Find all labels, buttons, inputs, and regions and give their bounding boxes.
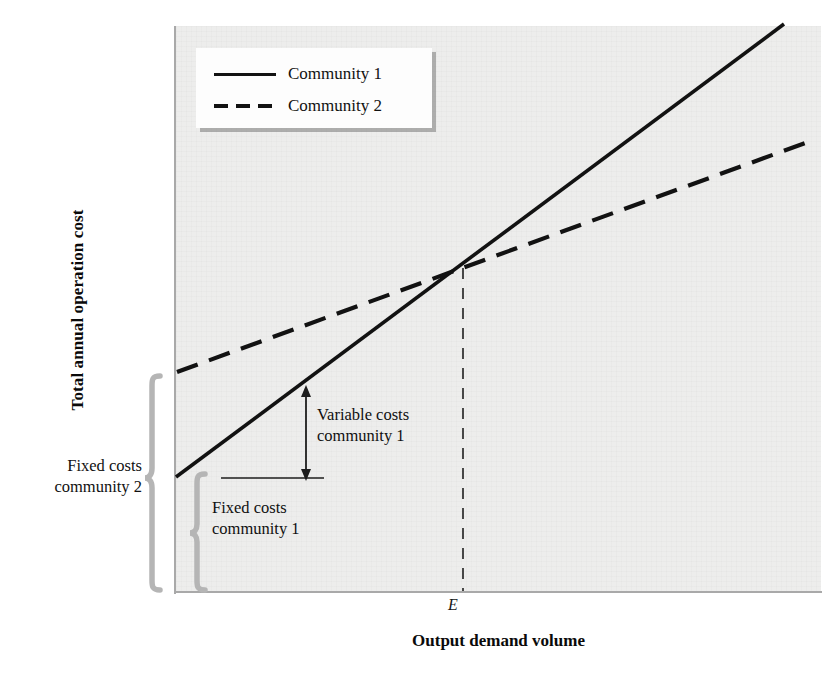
legend-key-dashed-line-icon <box>214 104 276 108</box>
brace-fixed-costs-community-2 <box>145 376 160 590</box>
annotation-fixed-costs-community-1: Fixed costs community 1 <box>212 497 300 539</box>
x-axis-title: Output demand volume <box>176 631 821 651</box>
annotation-variable-costs: Variable costs community 1 <box>317 404 409 446</box>
x-axis-line <box>174 591 822 593</box>
annotation-fixed-costs-1-line1: Fixed costs <box>212 497 300 518</box>
chart-legend: Community 1 Community 2 <box>196 48 432 128</box>
legend-entry-community-2: Community 2 <box>196 90 432 122</box>
legend-key-solid-line-icon <box>214 73 276 76</box>
figure-container: Total annual operation cost Output deman… <box>0 0 829 678</box>
legend-label-community-2: Community 2 <box>288 96 382 116</box>
legend-label-community-1: Community 1 <box>288 64 382 84</box>
breakeven-label-e: E <box>448 596 458 614</box>
annotation-fixed-costs-community-2: Fixed costs community 2 <box>0 455 142 497</box>
legend-entry-community-1: Community 1 <box>196 58 432 90</box>
annotation-fixed-costs-2-line2: community 2 <box>0 476 142 497</box>
annotation-fixed-costs-1-line2: community 1 <box>212 518 300 539</box>
annotation-fixed-costs-2-line1: Fixed costs <box>0 455 142 476</box>
annotation-variable-costs-line1: Variable costs <box>317 404 409 425</box>
y-axis-title: Total annual operation cost <box>68 170 88 450</box>
y-axis-line <box>174 26 176 594</box>
annotation-variable-costs-line2: community 1 <box>317 425 409 446</box>
